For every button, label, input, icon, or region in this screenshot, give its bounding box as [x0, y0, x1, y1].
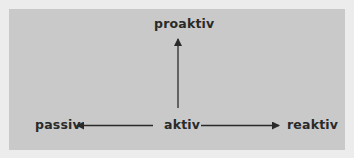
node-reaktiv: reaktiv	[287, 118, 338, 132]
node-aktiv: aktiv	[164, 118, 200, 132]
node-passiv: passiv	[35, 118, 81, 132]
node-proaktiv: proaktiv	[154, 17, 214, 31]
